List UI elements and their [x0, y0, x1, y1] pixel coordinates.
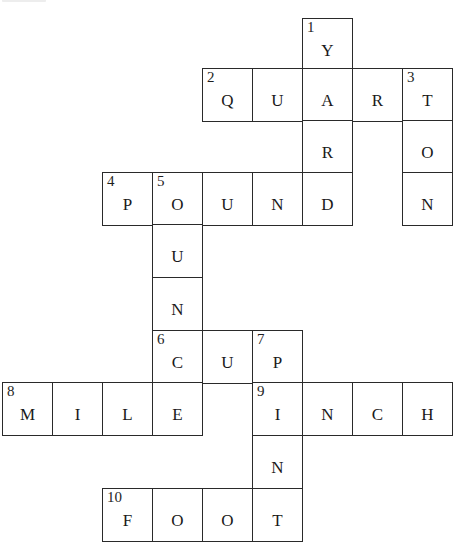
crossword-cell: U — [152, 224, 203, 278]
crossword-cell: 6C — [152, 330, 203, 384]
cell-letter: T — [403, 92, 452, 110]
crossword-cell: 8M — [2, 382, 53, 436]
cell-letter: C — [353, 406, 402, 424]
cell-letter: E — [153, 406, 202, 424]
cell-letter: U — [203, 196, 252, 214]
clue-number: 10 — [107, 490, 122, 505]
crossword-cell: 5O — [152, 172, 203, 226]
cell-letter: O — [153, 196, 202, 214]
crossword-cell: 4P — [102, 172, 153, 226]
crossword-cell: O — [152, 488, 203, 542]
clue-number: 7 — [257, 332, 265, 347]
clue-number: 9 — [257, 384, 265, 399]
clue-number: 2 — [207, 70, 215, 85]
crossword-cell: H — [402, 382, 453, 436]
cell-letter: U — [203, 354, 252, 372]
crossword-cell: 1Y — [302, 18, 353, 72]
cell-letter: H — [403, 406, 452, 424]
cell-letter: R — [353, 92, 402, 110]
crossword-cell: 2Q — [202, 68, 253, 122]
clue-number: 3 — [407, 70, 415, 85]
crossword-cell: 9I — [252, 382, 303, 436]
crossword-cell: E — [152, 382, 203, 436]
cell-letter: N — [153, 301, 202, 319]
crossword-cell: 3T — [402, 68, 453, 122]
cell-letter: O — [153, 512, 202, 530]
crossword-cell: U — [202, 172, 253, 226]
clue-number: 6 — [157, 332, 165, 347]
crossword-cell: O — [402, 120, 453, 174]
cell-letter: N — [253, 459, 302, 477]
crossword-cell: N — [252, 172, 303, 226]
clue-number: 1 — [307, 20, 315, 35]
crossword-cell: N — [152, 277, 203, 331]
cell-letter: T — [253, 512, 302, 530]
cell-letter: Y — [303, 42, 352, 60]
crossword-cell: I — [52, 382, 103, 436]
crossword-cell: D — [302, 172, 353, 226]
cell-letter: N — [253, 196, 302, 214]
cell-letter: P — [253, 354, 302, 372]
cell-letter: A — [303, 92, 352, 110]
crossword-cell: 7P — [252, 330, 303, 384]
crossword-cell: N — [402, 172, 453, 226]
cell-letter: O — [403, 144, 452, 162]
cell-letter: U — [153, 248, 202, 266]
cell-letter: L — [103, 406, 152, 424]
cell-letter: U — [253, 92, 302, 110]
cell-letter: N — [403, 196, 452, 214]
cell-letter: I — [253, 406, 302, 424]
clue-number: 5 — [157, 174, 165, 189]
cell-letter: I — [53, 406, 102, 424]
cell-letter: P — [103, 196, 152, 214]
crossword-cell: A — [302, 68, 353, 122]
crossword-cell: C — [352, 382, 403, 436]
cell-letter: F — [103, 512, 152, 530]
crossword-cell: U — [252, 68, 303, 122]
crossword-cell: R — [302, 120, 353, 174]
crossword-cell: L — [102, 382, 153, 436]
clue-number: 8 — [7, 384, 15, 399]
crossword-cell: N — [302, 382, 353, 436]
cell-letter: M — [3, 406, 52, 424]
crossword-cell: T — [252, 488, 303, 542]
crossword-cell: 10F — [102, 488, 153, 542]
cell-letter: O — [203, 512, 252, 530]
crossword-cell: O — [202, 488, 253, 542]
cell-letter: D — [303, 196, 352, 214]
crossword-cell: N — [252, 435, 303, 489]
crossword-cell: R — [352, 68, 403, 122]
clue-number: 4 — [107, 174, 115, 189]
cell-letter: Q — [203, 92, 252, 110]
cell-letter: N — [303, 406, 352, 424]
cell-letter: C — [153, 354, 202, 372]
cell-letter: R — [303, 144, 352, 162]
crossword-cell: U — [202, 330, 253, 384]
